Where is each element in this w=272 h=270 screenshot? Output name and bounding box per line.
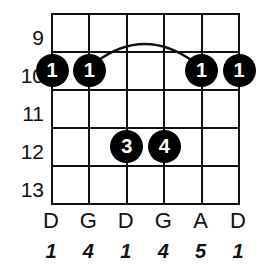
note-name-string-2: G — [68, 210, 108, 232]
string-line-3 — [126, 13, 128, 205]
finger-dot-string4-fret12: 4 — [148, 130, 181, 163]
note-name-string-5: A — [181, 210, 221, 232]
interval-string-4: 4 — [143, 241, 183, 261]
fret-label-13: 13 — [4, 179, 44, 200]
fret-line-9-10 — [51, 51, 239, 53]
interval-string-2: 4 — [68, 241, 108, 261]
fret-line-bottom — [51, 203, 239, 205]
interval-string-5: 5 — [181, 241, 221, 261]
string-line-2 — [88, 13, 90, 205]
fret-line-10-11 — [51, 89, 239, 91]
fret-line-12-13 — [51, 165, 239, 167]
chord-diagram: 9 10 11 12 13 1 1 1 1 3 4 D G D G A D 1 … — [0, 0, 272, 270]
finger-dot-string3-fret12: 3 — [110, 130, 143, 163]
string-line-1 — [51, 13, 53, 205]
finger-dot-string1-fret10: 1 — [36, 54, 69, 87]
fret-label-12: 12 — [4, 141, 44, 162]
note-name-string-4: G — [143, 210, 183, 232]
string-line-6 — [238, 13, 240, 205]
fret-label-9: 9 — [4, 27, 44, 48]
finger-dot-string2-fret10: 1 — [73, 54, 106, 87]
note-name-string-3: D — [106, 210, 146, 232]
finger-dot-string5-fret10: 1 — [185, 54, 218, 87]
note-name-string-1: D — [31, 210, 71, 232]
finger-dot-string6-fret10: 1 — [223, 54, 256, 87]
fret-line-top — [51, 13, 239, 15]
fret-label-11: 11 — [4, 103, 44, 124]
string-line-4 — [163, 13, 165, 205]
interval-string-3: 1 — [106, 241, 146, 261]
interval-string-6: 1 — [218, 241, 258, 261]
note-name-string-6: D — [218, 210, 258, 232]
string-line-5 — [201, 13, 203, 205]
interval-string-1: 1 — [31, 241, 71, 261]
fret-line-11-12 — [51, 127, 239, 129]
